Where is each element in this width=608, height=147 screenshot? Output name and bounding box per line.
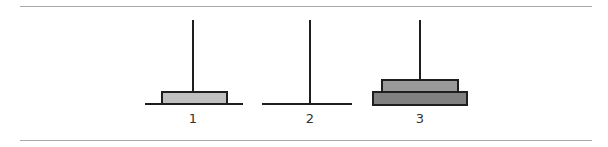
peg-3-label: 3 — [410, 112, 430, 126]
disk-large[interactable] — [372, 91, 468, 106]
bottom-rule — [20, 140, 592, 141]
peg-3-pole — [419, 20, 421, 80]
peg-3: 3 — [0, 0, 608, 147]
